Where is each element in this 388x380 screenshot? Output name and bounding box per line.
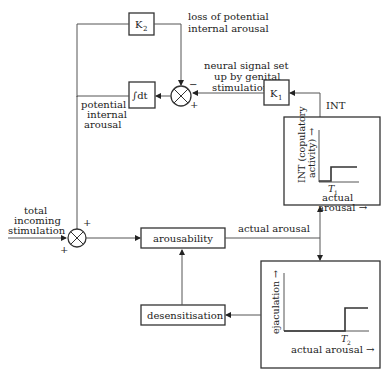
svg-text:arousal →: arousal → — [318, 202, 368, 213]
svg-text:+: + — [83, 217, 91, 228]
integrator-block: ∫dt — [129, 82, 155, 108]
ejaculation-graph: ejaculation → T 2 actual arousal → — [261, 261, 380, 368]
svg-text:stimulation: stimulation — [8, 225, 66, 236]
svg-text:actual arousal →: actual arousal → — [291, 344, 375, 355]
actual-arousal-label: actual arousal — [238, 223, 310, 234]
lower-summing-junction — [68, 229, 86, 247]
desensitisation-block: desensitisation — [141, 305, 225, 325]
svg-text:+: + — [60, 244, 68, 255]
svg-text:stimulation: stimulation — [212, 82, 270, 93]
svg-text:arousal: arousal — [84, 119, 122, 130]
svg-text:arousability: arousability — [153, 233, 213, 244]
svg-text:desensitisation: desensitisation — [147, 310, 224, 321]
svg-text:+: + — [190, 99, 198, 110]
upper-summing-junction — [171, 86, 191, 106]
svg-text:K: K — [135, 19, 143, 30]
int-graph: INT (copulatory activity) → T 1 actual a… — [284, 106, 380, 213]
neural-label: neural signal set — [204, 60, 289, 71]
svg-text:internal arousal: internal arousal — [188, 23, 269, 34]
svg-text:∫dt: ∫dt — [132, 90, 148, 101]
int-label: INT — [326, 100, 346, 111]
svg-text:ejaculation →: ejaculation → — [270, 270, 281, 334]
k1-block: K 1 — [264, 80, 289, 105]
svg-text:K: K — [270, 88, 278, 99]
svg-text:activity) →: activity) → — [306, 128, 317, 178]
svg-text:1: 1 — [278, 94, 282, 102]
k2-block: K 2 — [129, 13, 154, 35]
feedback-diagram: K 2 loss of potential internal arousal −… — [0, 0, 388, 380]
svg-text:−: − — [189, 79, 197, 90]
arousability-block: arousability — [141, 228, 225, 248]
loss-label: loss of potential — [188, 11, 269, 22]
svg-text:2: 2 — [143, 25, 147, 33]
